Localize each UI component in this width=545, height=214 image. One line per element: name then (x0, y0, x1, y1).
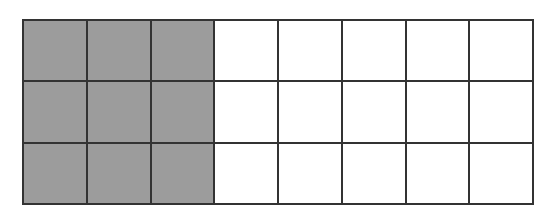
grid-cell-unshaded (214, 81, 278, 142)
grid-cell-unshaded (342, 20, 406, 81)
grid-cell-shaded (23, 20, 87, 81)
fraction-grid (22, 19, 534, 205)
grid-cell-unshaded (278, 20, 342, 81)
grid-cell-shaded (151, 81, 215, 142)
grid-cell-unshaded (406, 143, 470, 204)
grid-cell-unshaded (342, 143, 406, 204)
grid-cell-unshaded (214, 20, 278, 81)
grid-cell-unshaded (278, 143, 342, 204)
grid-cell-unshaded (406, 20, 470, 81)
grid-cell-shaded (151, 20, 215, 81)
grid-cell-shaded (23, 143, 87, 204)
grid-cell-shaded (87, 143, 151, 204)
grid-cell-shaded (87, 81, 151, 142)
grid-cell-unshaded (469, 143, 533, 204)
grid-cell-unshaded (469, 81, 533, 142)
grid-cell-unshaded (342, 81, 406, 142)
grid-cell-unshaded (406, 81, 470, 142)
grid-cell-shaded (151, 143, 215, 204)
grid-cell-shaded (23, 81, 87, 142)
grid-cell-unshaded (278, 81, 342, 142)
grid-cell-unshaded (214, 143, 278, 204)
grid-cell-shaded (87, 20, 151, 81)
grid-cell-unshaded (469, 20, 533, 81)
